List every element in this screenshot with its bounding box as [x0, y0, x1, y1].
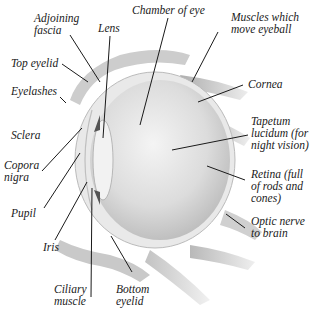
label-copora-nigra: Copora nigra	[4, 159, 39, 183]
label-top-eyelid: Top eyelid	[11, 57, 58, 69]
label-tapetum-lucidum: Tapetum lucidum (for night vision)	[251, 115, 309, 151]
label-eyelashes: Eyelashes	[11, 85, 57, 97]
label-iris: Iris	[43, 241, 59, 253]
label-pupil: Pupil	[11, 207, 36, 219]
bottom-eyelid-shape	[55, 240, 150, 282]
label-bottom-eyelid: Bottom eyelid	[116, 283, 149, 307]
label-chamber-of-eye: Chamber of eye	[132, 4, 205, 16]
label-sclera: Sclera	[11, 129, 40, 141]
label-adjoining-fascia: Adjoining fascia	[34, 12, 79, 36]
label-lens: Lens	[98, 22, 120, 34]
label-muscles: Muscles which move eyeball	[231, 11, 299, 35]
label-cornea: Cornea	[248, 78, 283, 90]
label-retina: Retina (full of rods and cones)	[251, 168, 303, 204]
label-optic-nerve: Optic nerve to brain	[251, 215, 305, 239]
label-ciliary-muscle: Ciliary muscle	[54, 283, 87, 307]
eye-anatomy-diagram: Adjoining fascia Lens Chamber of eye Mus…	[0, 0, 323, 320]
eye-illustration	[0, 0, 323, 320]
